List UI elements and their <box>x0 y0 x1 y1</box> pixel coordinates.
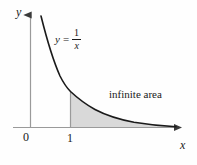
plot-area <box>0 0 197 165</box>
figure-container: y x 0 1 y = 1 x infinite area <box>0 0 197 165</box>
equation-lhs: y <box>55 34 60 45</box>
equation-fraction: 1 x <box>72 28 81 51</box>
fraction-denominator: x <box>72 40 80 51</box>
infinite-area-annotation: infinite area <box>109 89 162 100</box>
equation-equals-sign: = <box>62 34 70 45</box>
fraction-numerator: 1 <box>72 28 81 39</box>
y-axis-label: y <box>16 6 21 18</box>
curve-equation-label: y = 1 x <box>55 28 81 51</box>
x-axis-label: x <box>180 139 185 151</box>
x-tick-label-1: 1 <box>67 132 73 144</box>
origin-label: 0 <box>23 131 29 143</box>
